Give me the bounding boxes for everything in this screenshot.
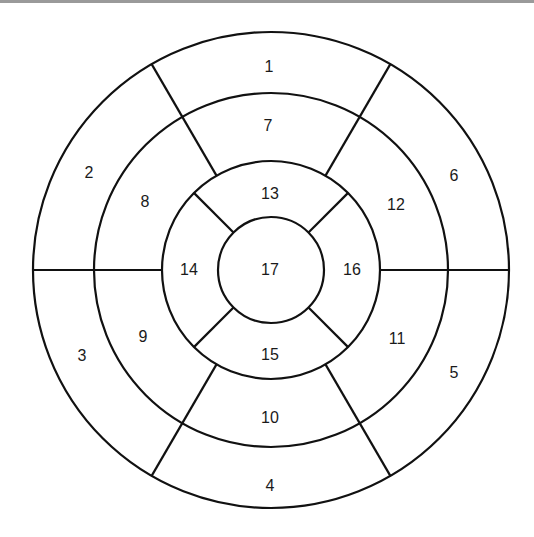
apical-divider-se [309, 308, 349, 348]
apical-divider-nw [194, 193, 234, 233]
segment-15-label: 15 [261, 346, 279, 363]
segment-4-label: 4 [266, 477, 275, 494]
apical-divider-ne [309, 193, 349, 233]
bullseye-diagram: 1 2 3 4 5 6 7 8 9 10 11 12 13 14 15 16 1… [0, 0, 534, 537]
segment-14-label: 14 [180, 261, 198, 278]
segment-16-label: 16 [343, 261, 361, 278]
segment-3-label: 3 [78, 347, 87, 364]
segment-6-label: 6 [450, 167, 459, 184]
segment-12-label: 12 [387, 196, 405, 213]
segment-17-label: 17 [261, 261, 279, 278]
divider-upper-right [326, 64, 391, 176]
segment-2-label: 2 [85, 164, 94, 181]
segment-11-label: 11 [389, 330, 406, 347]
segment-8-label: 8 [141, 193, 150, 210]
segment-13-label: 13 [261, 185, 279, 202]
divider-lower-right [326, 364, 391, 476]
divider-upper-left [152, 64, 217, 176]
divider-lower-left [152, 364, 217, 476]
segment-10-label: 10 [261, 409, 279, 426]
segment-5-label: 5 [450, 364, 459, 381]
segment-7-label: 7 [264, 117, 273, 134]
segment-1-label: 1 [265, 58, 274, 75]
segment-9-label: 9 [139, 328, 148, 345]
apical-divider-sw [194, 308, 234, 348]
